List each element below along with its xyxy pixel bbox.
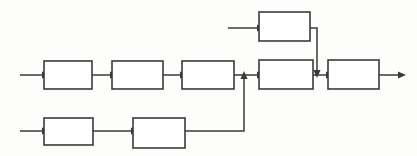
block-middle-5[interactable] <box>328 60 379 89</box>
block-middle-1[interactable] <box>44 61 92 89</box>
block-diagram-canvas <box>0 0 417 156</box>
block-top-1[interactable] <box>259 12 310 41</box>
block-bottom-1[interactable] <box>44 118 93 145</box>
block-rect[interactable] <box>328 60 379 89</box>
block-rect[interactable] <box>44 61 92 89</box>
block-middle-3[interactable] <box>182 61 234 89</box>
block-middle-2[interactable] <box>112 61 163 89</box>
block-rect[interactable] <box>182 61 234 89</box>
block-rect[interactable] <box>259 12 310 41</box>
block-rect[interactable] <box>112 61 163 89</box>
block-rect[interactable] <box>133 118 185 148</box>
block-bottom-2[interactable] <box>133 118 185 148</box>
block-diagram-svg <box>0 0 417 156</box>
block-rect[interactable] <box>44 118 93 145</box>
block-rect[interactable] <box>259 60 313 89</box>
block-middle-4[interactable] <box>259 60 313 89</box>
